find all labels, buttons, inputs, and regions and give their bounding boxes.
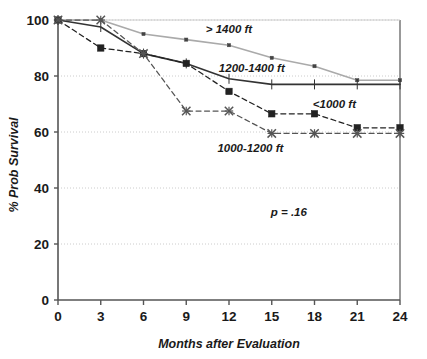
x-axis-ticks: 03691215182124 — [54, 300, 408, 324]
survival-chart-figure: 020406080100 03691215182124 > 1400 ft120… — [0, 0, 427, 359]
y-axis-title: % Prob Survival — [7, 117, 21, 213]
y-tick-label-80: 80 — [34, 69, 49, 84]
marker-small-square — [185, 38, 188, 41]
marker-x-star — [225, 107, 233, 115]
marker-small-square — [270, 56, 273, 59]
marker-small-square — [313, 65, 316, 68]
marker-x-star — [139, 49, 147, 57]
x-tick-label-24: 24 — [392, 309, 408, 324]
series-label-1: > 1400 ft — [206, 23, 254, 35]
x-tick-label-6: 6 — [140, 309, 148, 324]
x-tick-label-21: 21 — [350, 309, 366, 324]
x-tick-label-18: 18 — [307, 309, 323, 324]
survival-chart-svg: 020406080100 03691215182124 > 1400 ft120… — [0, 0, 427, 359]
marker-x-star — [353, 129, 361, 137]
grid-lines — [58, 20, 400, 244]
series-label-2: 1200-1400 ft — [219, 62, 286, 74]
marker-x-star — [182, 107, 190, 115]
x-tick-label-15: 15 — [264, 309, 280, 324]
marker-x-star — [97, 16, 105, 24]
x-tick-label-12: 12 — [221, 309, 236, 324]
marker-x-star — [310, 129, 318, 137]
series-label-4: 1000-1200 ft — [217, 142, 284, 154]
annotations-group: p = .16 — [270, 206, 308, 218]
marker-x-star — [396, 129, 404, 137]
y-tick-label-0: 0 — [41, 293, 49, 308]
marker-square — [311, 111, 317, 117]
y-tick-label-60: 60 — [34, 125, 49, 140]
y-tick-label-20: 20 — [34, 237, 49, 252]
marker-square — [98, 45, 104, 51]
series-label-3: <1000 ft — [313, 98, 357, 110]
marker-square — [269, 111, 275, 117]
marker-small-square — [227, 44, 230, 47]
annotation-p-value: p = .16 — [270, 206, 308, 218]
y-tick-label-100: 100 — [26, 13, 49, 28]
x-tick-label-3: 3 — [97, 309, 105, 324]
marker-x-star — [54, 16, 62, 24]
marker-small-square — [142, 32, 145, 35]
y-axis-ticks: 020406080100 — [26, 13, 58, 308]
marker-x-star — [268, 129, 276, 137]
x-tick-label-9: 9 — [182, 309, 190, 324]
x-axis-title: Months after Evaluation — [158, 337, 300, 351]
x-tick-label-0: 0 — [54, 309, 62, 324]
marker-square — [183, 60, 189, 66]
y-tick-label-40: 40 — [34, 181, 49, 196]
marker-square — [226, 88, 232, 94]
